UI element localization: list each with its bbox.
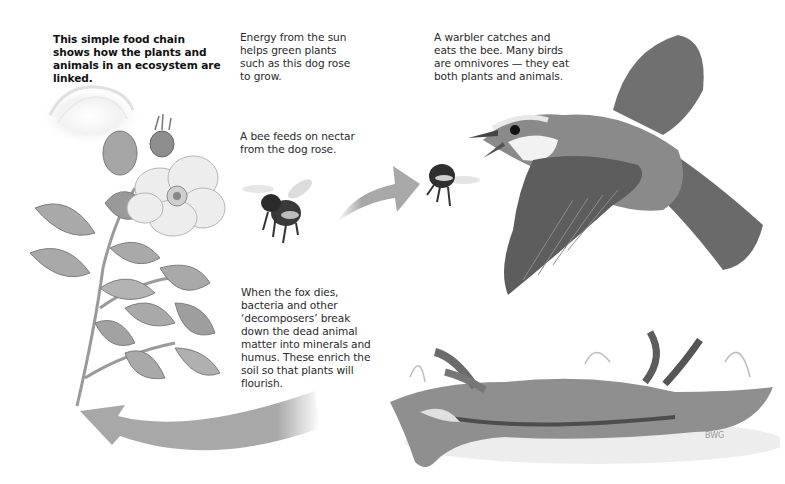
dead-fox-illustration: BWG: [375, 322, 780, 482]
bee-illustration: [238, 175, 318, 245]
artist-signature: BWG: [705, 431, 724, 440]
arrow-bee-to-warbler: [335, 162, 425, 222]
dog-rose-illustration: [25, 108, 240, 408]
fox-caption: When the fox dies, bacteria and other ‘d…: [241, 286, 371, 390]
arrow-fox-to-plant: [80, 383, 320, 458]
warbler-illustration: [463, 30, 773, 300]
sun-plant-caption: Energy from the sun helps green plants s…: [240, 31, 355, 83]
bee-caption: A bee feeds on nectar from the dog rose.: [240, 130, 360, 156]
